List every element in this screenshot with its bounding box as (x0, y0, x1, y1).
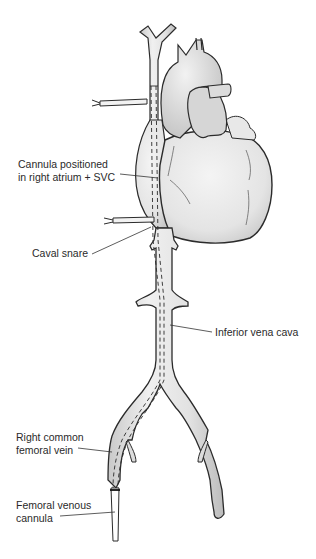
upper-snare (92, 99, 147, 106)
pulmonary-artery (188, 84, 231, 138)
label-line: femoral vein (16, 444, 84, 457)
label-inferior-vena-cava: Inferior vena cava (215, 326, 298, 339)
label-right-common-femoral-vein: Right common femoral vein (16, 431, 84, 456)
label-caval-snare: Caval snare (32, 247, 88, 260)
anatomy-illustration (0, 0, 316, 559)
label-line: cannula (16, 512, 91, 525)
label-cannula-ra-svc: Cannula positioned in right atrium + SVC (18, 158, 115, 183)
label-line: Cannula positioned (18, 158, 115, 171)
label-line: in right atrium + SVC (18, 171, 115, 184)
inferior-vena-cava-vessel (108, 228, 224, 518)
label-line: Right common (16, 431, 84, 444)
caval-snare-tube (104, 217, 154, 224)
label-line: Femoral venous (16, 499, 91, 512)
label-femoral-venous-cannula: Femoral venous cannula (16, 499, 91, 524)
cannulation-diagram: Cannula positioned in right atrium + SVC… (0, 0, 316, 559)
femoral-cannula-tube (110, 488, 120, 541)
